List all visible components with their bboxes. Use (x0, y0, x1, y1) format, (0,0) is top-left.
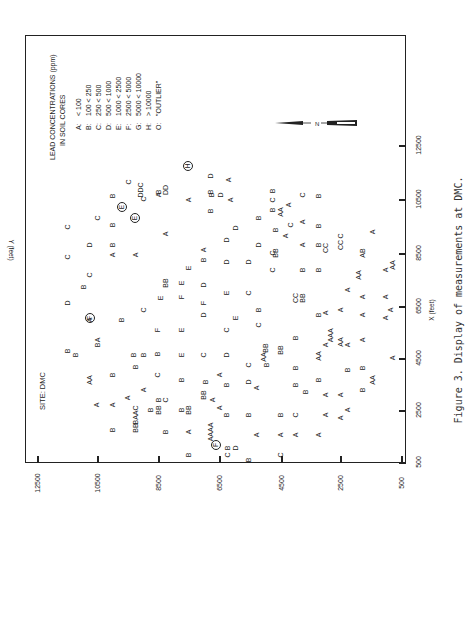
data-point: A (359, 313, 366, 318)
data-point: BB (277, 345, 284, 354)
data-point: D (223, 259, 230, 264)
data-point: C (277, 452, 284, 457)
data-point: B (154, 352, 161, 357)
data-point: A (277, 433, 284, 438)
data-point: AB (359, 248, 366, 257)
data-point: B (147, 408, 154, 413)
data-point: B (155, 398, 162, 403)
data-point: A (109, 403, 116, 408)
circled-data-point: F (85, 313, 95, 323)
x-tick (399, 145, 406, 147)
data-point: B (140, 353, 147, 358)
data-point: B (292, 366, 299, 371)
data-point: D (200, 282, 207, 287)
data-point: DD (162, 185, 169, 195)
data-point: AA (260, 352, 267, 361)
legend-key: E: (114, 116, 124, 130)
data-point: A (216, 406, 223, 411)
data-point: B (207, 209, 214, 214)
data-point: A (124, 396, 131, 401)
legend-entry: C:250 < 500 (94, 54, 104, 160)
data-point: C (154, 372, 161, 377)
x-tick (399, 253, 406, 255)
data-point: B (178, 378, 185, 383)
data-point: A (322, 343, 329, 348)
data-point: B (224, 446, 231, 451)
legend-key: C: (94, 116, 104, 130)
data-point: C (287, 222, 294, 227)
x-tick-label: 10500 (415, 189, 422, 208)
data-point: CC (292, 293, 299, 303)
site-label: SITE: DMC (38, 372, 47, 410)
data-point: C (140, 307, 147, 312)
legend-key: A: (74, 116, 84, 130)
legend-entry: D:500 < 1000 (104, 54, 114, 160)
data-point: B (202, 380, 209, 385)
data-point: B (245, 458, 252, 463)
data-point: B (208, 193, 215, 198)
data-point: B (344, 368, 351, 373)
data-point: B (132, 365, 139, 370)
data-point: BB (299, 293, 306, 302)
data-point: D (232, 225, 239, 230)
data-point: B (315, 378, 322, 383)
y-tick-label: 2500 (337, 475, 344, 491)
data-point: D (217, 192, 224, 197)
y-tick-label: 8500 (155, 475, 162, 491)
data-point: A (185, 198, 192, 203)
data-point: B (64, 349, 71, 354)
data-point: C (64, 254, 71, 259)
data-point: A (344, 288, 351, 293)
data-point: A (94, 338, 101, 343)
x-tick-label: 2500 (415, 402, 422, 418)
data-point: B (109, 373, 116, 378)
y-tick-label: 500 (398, 477, 405, 489)
data-point: A (292, 433, 299, 438)
data-point: A (382, 295, 389, 300)
data-point: B (315, 224, 322, 229)
data-point: A (369, 230, 376, 235)
legend-range: > 10000 (145, 91, 152, 117)
data-point: BAAC (132, 405, 139, 424)
data-point: C (245, 290, 252, 295)
circled-data-point: F (211, 440, 221, 450)
legend-key: O: (154, 116, 164, 130)
data-point: B (302, 390, 309, 395)
data-point: E (178, 281, 185, 286)
data-point: E (185, 266, 192, 271)
data-point: A (227, 198, 234, 203)
data-point: A (315, 433, 322, 438)
data-point: B (223, 383, 230, 388)
data-point: C (269, 197, 276, 202)
y-tick-label: 10500 (94, 473, 101, 492)
legend-range: 1000 < 2500 (115, 77, 122, 116)
data-point: D (64, 300, 71, 305)
data-point: B (359, 366, 366, 371)
x-tick (399, 306, 406, 308)
data-point: A (225, 178, 232, 183)
data-point: BB (155, 405, 162, 414)
data-point: E (157, 296, 164, 301)
data-point: A (359, 338, 366, 343)
data-point: BB (185, 405, 192, 414)
x-tick-label: 500 (415, 456, 422, 468)
data-point: B (269, 189, 276, 194)
legend-entry: H:> 10000 (144, 54, 154, 160)
y-tick (340, 456, 342, 463)
legend: LEAD CONCENTRATIONS (ppm) IN SOIL CORES … (48, 54, 164, 160)
data-point: A (200, 248, 207, 253)
data-point: A (185, 430, 192, 435)
data-point: A (282, 234, 289, 239)
data-point: C (140, 196, 147, 201)
data-point: A (162, 232, 169, 237)
data-point: C (86, 272, 93, 277)
circled-data-point: H (183, 161, 193, 171)
data-point: D (200, 312, 207, 317)
data-point: B (118, 318, 125, 323)
data-point: B (315, 243, 322, 248)
data-point: A (382, 316, 389, 321)
data-point: A (109, 253, 116, 258)
data-point: AA (327, 328, 334, 337)
data-point: A (253, 433, 260, 438)
data-point: BB (200, 390, 207, 399)
